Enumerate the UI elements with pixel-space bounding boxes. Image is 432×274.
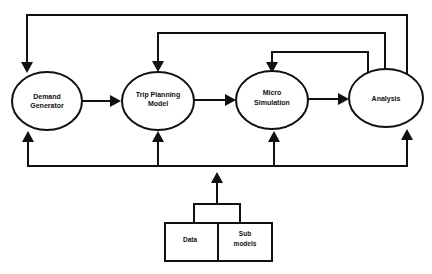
arrowhead-up-icon [401,129,413,140]
edge-trip-to-micro [194,94,236,106]
submodels-label: models [234,240,257,247]
arrowhead-up-icon [152,131,164,142]
node-trip-planning-model: Trip Planning Model [122,72,194,130]
arrowhead-down-icon [152,61,164,72]
node-label: Micro [263,89,282,96]
node-label: Trip Planning [136,91,180,99]
submodels-label: Sub [239,230,251,237]
data-label: Data [183,236,197,243]
node-label: Demand [33,93,61,100]
arrowhead-right-icon [225,94,236,106]
arrowhead-up-icon [268,131,280,142]
node-analysis: Analysis [349,69,423,127]
node-label: Analysis [372,95,401,103]
inputs-connector-box [194,204,240,223]
feedback-analysis-to-micro [266,52,368,73]
node-demand-generator: Demand Generator [12,72,82,130]
arrowhead-down-icon [21,62,33,73]
node-micro-simulation: Micro Simulation [236,71,308,129]
node-label: Generator [30,102,64,109]
arrowhead-right-icon [110,95,121,107]
feedback-analysis-to-demand [21,15,407,80]
arrowhead-up-icon [22,131,34,142]
edge-micro-to-analysis [308,93,349,105]
input-bus [22,129,413,203]
node-label: Simulation [254,99,290,106]
arrowhead-up-icon [211,172,223,183]
flow-diagram: Demand Generator Trip Planning Model Mic… [0,0,432,274]
inputs-block: Data Sub models [165,204,272,261]
edge-demand-to-trip [82,95,121,107]
arrowhead-right-icon [338,93,349,105]
node-label: Model [148,100,168,107]
